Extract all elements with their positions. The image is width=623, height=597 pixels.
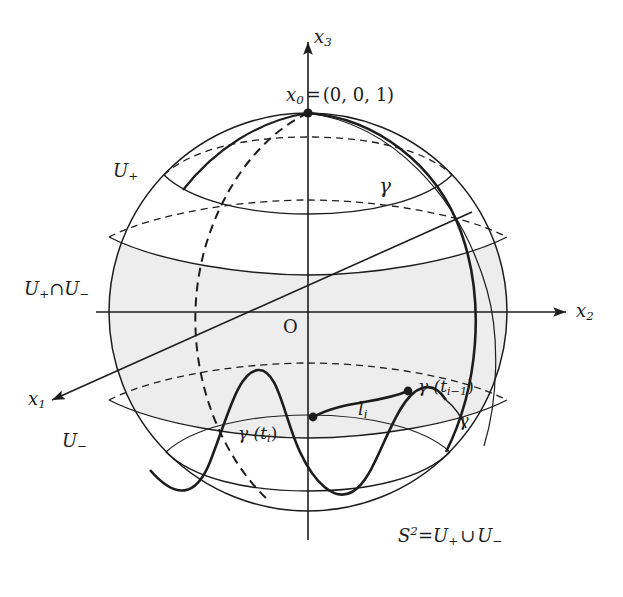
- axis-label-x2: x2: [576, 302, 594, 323]
- point-gamma-ti-minus-1-dot: [404, 387, 413, 396]
- point-label-gamma-ti-minus-1: γ (ti−1): [418, 378, 474, 397]
- figure-caption: S2=U+∪U−: [398, 526, 502, 548]
- axis-label-x3: x3: [314, 28, 332, 49]
- axis-label-x1: x1: [28, 390, 46, 411]
- point-label-gamma-ti: γ (ti): [238, 425, 277, 444]
- sphere-diagram-figure: x3 x2 x1 O x0=(0, 0, 1) U+ U− U+∩U− γ li…: [0, 0, 623, 597]
- curve-label-li: li: [358, 400, 368, 421]
- origin-label: O: [283, 318, 298, 336]
- region-label-u-plus: U+: [113, 162, 138, 183]
- point-gamma-ti-dot: [309, 413, 318, 422]
- region-label-u-minus: U−: [62, 432, 87, 453]
- curve-label-gamma: γ: [379, 176, 391, 196]
- region-label-u-intersection: U+∩U−: [24, 280, 89, 301]
- point-label-north-pole: x0=(0, 0, 1): [286, 86, 394, 107]
- curve-label-gamma-small: γ: [459, 413, 469, 429]
- point-north-pole-dot: [303, 108, 312, 117]
